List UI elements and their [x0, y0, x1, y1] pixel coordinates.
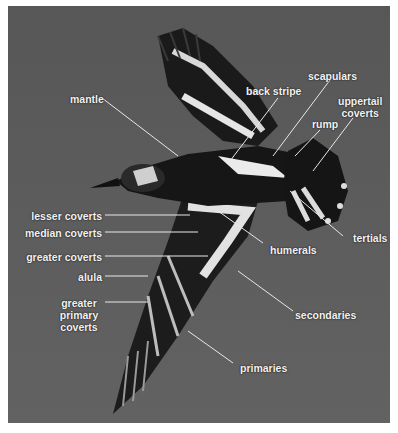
label-tertials: tertials [353, 232, 387, 244]
label-greater-primary-coverts: greater primary coverts [56, 297, 102, 333]
label-primaries: primaries [240, 362, 287, 374]
bird-photo: mantle back stripe scapulars rump uppert… [8, 6, 390, 423]
label-secondaries: secondaries [295, 309, 356, 321]
label-uppertail-coverts: uppertail coverts [338, 95, 382, 119]
label-mantle: mantle [70, 93, 104, 105]
label-alula: alula [48, 271, 102, 283]
label-humerals: humerals [270, 244, 317, 256]
label-scapulars: scapulars [308, 70, 357, 82]
label-back-stripe: back stripe [246, 85, 301, 97]
label-median-coverts: median coverts [14, 227, 102, 239]
label-rump: rump [312, 118, 338, 130]
label-greater-coverts: greater coverts [14, 251, 102, 263]
label-lesser-coverts: lesser coverts [22, 210, 102, 222]
